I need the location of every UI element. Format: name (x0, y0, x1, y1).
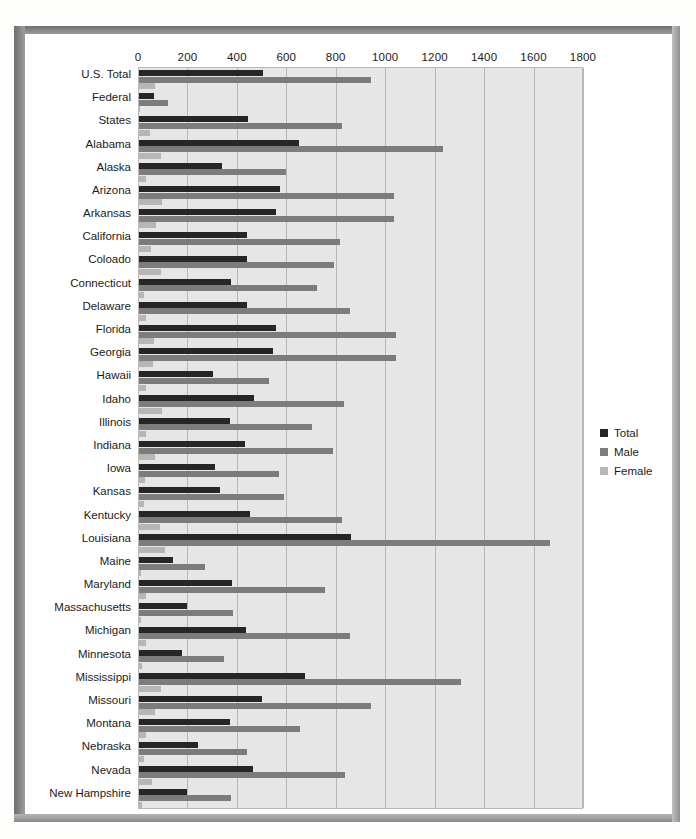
bar-female (139, 292, 144, 298)
bar-total (139, 441, 245, 447)
x-tick-label: 1400 (471, 51, 497, 63)
bar-female (139, 361, 153, 367)
bar-male (139, 216, 394, 222)
bar-total (139, 742, 198, 748)
category-label: Montana (86, 717, 131, 729)
category-label: Federal (92, 91, 131, 103)
bar-female (139, 176, 146, 182)
bar-total (139, 186, 280, 192)
bar-female (139, 477, 145, 483)
gridline (286, 68, 287, 808)
bar-total (139, 673, 305, 679)
bar-female (139, 106, 140, 112)
bar-female (139, 199, 162, 205)
bar-total (139, 348, 273, 354)
bar-male (139, 100, 168, 106)
bar-total (139, 70, 263, 76)
bar-male (139, 633, 350, 639)
bar-female (139, 431, 146, 437)
category-label: Connecticut (70, 277, 131, 289)
bar-female (139, 779, 152, 785)
bar-female (139, 570, 141, 576)
bar-female (139, 802, 142, 808)
category-label: Arizona (92, 184, 131, 196)
bar-female (139, 617, 141, 623)
legend-item: Female (600, 462, 672, 479)
bar-total (139, 464, 215, 470)
bar-female (139, 547, 165, 553)
category-label: Maine (100, 555, 131, 567)
legend-swatch-icon (600, 448, 608, 456)
bar-male (139, 332, 396, 338)
bar-total (139, 696, 262, 702)
bar-total (139, 395, 254, 401)
bar-male (139, 679, 461, 685)
category-label: Minnesota (78, 648, 131, 660)
bar-male (139, 772, 345, 778)
category-label: California (82, 230, 131, 242)
bar-female (139, 501, 144, 507)
legend-label: Female (614, 465, 652, 477)
bar-total (139, 116, 248, 122)
x-tick-label: 0 (135, 51, 142, 63)
bar-total (139, 603, 187, 609)
bar-total (139, 534, 351, 540)
bar-total (139, 650, 182, 656)
bar-total (139, 209, 276, 215)
bar-total (139, 627, 246, 633)
bar-female (139, 130, 150, 136)
gridline (336, 68, 337, 808)
legend-item: Total (600, 424, 672, 441)
x-tick-label: 800 (326, 51, 346, 63)
bar-male (139, 355, 396, 361)
category-label: Arkansas (83, 207, 131, 219)
bar-male (139, 517, 342, 523)
bar-female (139, 709, 155, 715)
bar-male (139, 726, 300, 732)
bar-male (139, 610, 233, 616)
page-frame-top (14, 26, 680, 34)
legend-label: Male (614, 446, 639, 458)
bar-male (139, 494, 284, 500)
bar-male (139, 308, 350, 314)
category-label: Kentucky (84, 509, 131, 521)
x-tick-label: 1200 (421, 51, 447, 63)
category-label: Delaware (82, 300, 131, 312)
bar-male (139, 262, 334, 268)
bar-male (139, 471, 279, 477)
page-frame-right (672, 26, 680, 822)
bar-male (139, 448, 333, 454)
x-axis-tick-labels: 020040060080010001200140016001800 (25, 51, 672, 65)
bar-female (139, 408, 162, 414)
x-tick-label: 1000 (372, 51, 398, 63)
bar-female (139, 756, 144, 762)
bar-male (139, 285, 317, 291)
bar-male (139, 703, 371, 709)
bar-male (139, 656, 224, 662)
category-label: Georgia (90, 346, 131, 358)
legend-swatch-icon (600, 467, 608, 475)
x-tick-label: 400 (227, 51, 247, 63)
bar-total (139, 371, 213, 377)
category-label: Alaska (96, 161, 131, 173)
bar-male (139, 540, 550, 546)
x-tick-label: 1800 (570, 51, 596, 63)
category-label: Massachusetts (54, 601, 131, 613)
category-label: States (98, 114, 131, 126)
gridline (385, 68, 386, 808)
category-label: Louisiana (82, 532, 131, 544)
category-label: Michigan (85, 624, 131, 636)
gridline (484, 68, 485, 808)
chart-legend: TotalMaleFemale (600, 424, 672, 481)
x-tick-label: 1600 (520, 51, 546, 63)
bar-male (139, 795, 231, 801)
bar-female (139, 454, 155, 460)
bar-female (139, 269, 161, 275)
bar-male (139, 587, 325, 593)
bar-male (139, 146, 443, 152)
bar-female (139, 338, 154, 344)
bar-male (139, 77, 371, 83)
bar-male (139, 564, 205, 570)
bar-male (139, 401, 344, 407)
bar-female (139, 593, 146, 599)
